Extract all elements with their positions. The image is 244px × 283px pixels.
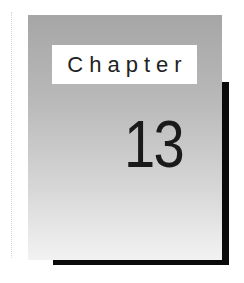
chapter-label: Chapter (61, 52, 187, 78)
chapter-title-panel: Chapter 13 (28, 15, 222, 260)
chapter-number: 13 (124, 111, 183, 177)
drop-shadow-right (222, 82, 229, 265)
chapter-label-box: Chapter (52, 45, 197, 84)
margin-dotted-rule (11, 12, 12, 258)
